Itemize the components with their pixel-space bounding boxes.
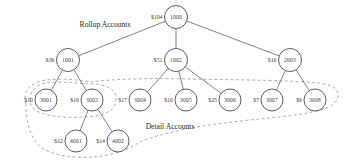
node-label-3006: 3006 bbox=[224, 97, 236, 103]
amount-label-3005: $10 bbox=[164, 97, 173, 103]
rollup-accounts-label: Rollup Accounts bbox=[80, 20, 131, 29]
account-node-2003[interactable]: 2003$16 bbox=[268, 49, 302, 72]
node-label-1001: 1001 bbox=[62, 57, 74, 63]
edge-1000-to-2003 bbox=[187, 21, 279, 56]
edge-3002-to-4001 bbox=[80, 110, 88, 131]
node-label-3008: 3008 bbox=[309, 97, 321, 103]
detail-accounts-label: Detail Accounts bbox=[146, 122, 195, 131]
amount-label-3008: $9 bbox=[296, 97, 302, 103]
node-label-2003: 2003 bbox=[284, 57, 296, 63]
node-label-4002: 4002 bbox=[112, 138, 124, 144]
edge-1001-to-3001 bbox=[51, 70, 62, 90]
edge-2003-to-3008 bbox=[296, 70, 309, 91]
node-label-1000: 1000 bbox=[170, 14, 182, 20]
node-label-3005: 3005 bbox=[180, 97, 192, 103]
account-node-1002[interactable]: 1002$51 bbox=[154, 49, 188, 72]
edge-1002-to-3004 bbox=[147, 69, 168, 92]
account-node-3002[interactable]: 3002$16 bbox=[70, 89, 103, 111]
node-label-1002: 1002 bbox=[170, 57, 182, 63]
amount-label-1000: $104 bbox=[151, 14, 163, 20]
account-node-3007[interactable]: 3007$7 bbox=[253, 89, 283, 111]
node-label-3001: 3001 bbox=[40, 97, 52, 103]
account-node-1001[interactable]: 1001$36 bbox=[46, 49, 80, 72]
account-node-3006[interactable]: 3006$25 bbox=[208, 89, 241, 111]
edge-2003-to-3007 bbox=[277, 70, 286, 89]
node-label-3004: 3004 bbox=[134, 97, 146, 103]
account-node-3008[interactable]: 3008$9 bbox=[296, 89, 326, 111]
edge-3002-to-4002 bbox=[98, 109, 112, 131]
amount-label-1002: $51 bbox=[154, 57, 163, 63]
account-hierarchy-diagram: 1000$1041001$361002$512003$163001$103002… bbox=[0, 0, 349, 166]
edge-1002-to-3005 bbox=[179, 71, 184, 89]
account-node-4001[interactable]: 4001$12 bbox=[54, 130, 87, 152]
amount-label-4002: $14 bbox=[96, 138, 105, 144]
node-label-3007: 3007 bbox=[266, 97, 278, 103]
amount-label-3004: $17 bbox=[118, 97, 127, 103]
amount-label-2003: $16 bbox=[268, 57, 277, 63]
node-label-3002: 3002 bbox=[86, 97, 98, 103]
diagram-canvas: 1000$1041001$361002$512003$163001$103002… bbox=[0, 0, 349, 166]
account-node-4002[interactable]: 4002$14 bbox=[96, 130, 129, 152]
edge-layer bbox=[51, 21, 309, 132]
amount-label-3007: $7 bbox=[253, 97, 259, 103]
account-node-3005[interactable]: 3005$10 bbox=[164, 89, 197, 111]
account-node-3001[interactable]: 3001$10 bbox=[24, 89, 57, 111]
amount-label-4001: $12 bbox=[54, 138, 63, 144]
node-label-4001: 4001 bbox=[70, 138, 82, 144]
amount-label-3001: $10 bbox=[24, 97, 33, 103]
amount-label-3006: $25 bbox=[208, 97, 217, 103]
amount-label-1001: $36 bbox=[46, 57, 55, 63]
amount-label-3002: $16 bbox=[70, 97, 79, 103]
account-node-3004[interactable]: 3004$17 bbox=[118, 89, 151, 111]
group-label-layer: Rollup AccountsDetail Accounts bbox=[80, 20, 195, 131]
edge-1002-to-3006 bbox=[185, 67, 221, 94]
